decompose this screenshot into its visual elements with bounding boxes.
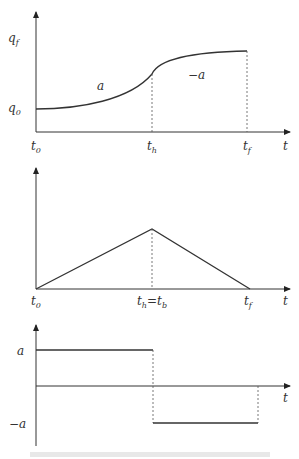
position-panel: qf q0 a −a t0 th tf t	[8, 12, 290, 155]
t-axis-label: t	[283, 139, 288, 153]
acceleration-panel: a −a t	[9, 325, 290, 446]
t-axis-label: t	[283, 391, 288, 405]
tf-label: tf	[243, 139, 253, 155]
position-curve	[36, 51, 247, 109]
t0-label: t0	[31, 139, 41, 155]
t0-label: t0	[31, 294, 41, 310]
tf-label: tf	[244, 294, 254, 310]
qf-label: qf	[8, 31, 21, 47]
accel-a-label: a	[97, 79, 104, 93]
t-axis-label: t	[283, 294, 288, 308]
caption-blur	[30, 452, 270, 457]
a-label: a	[17, 344, 24, 358]
q0-label: q0	[8, 101, 21, 117]
velocity-panel: t0 th=tb tf t	[31, 168, 290, 310]
th-tb-label: th=tb	[137, 294, 167, 310]
trajectory-diagram: qf q0 a −a t0 th tf t t0 th=tb tf t a −a…	[0, 0, 299, 459]
neg-a-label: −a	[9, 417, 26, 431]
accel-neg-a-label: −a	[188, 68, 205, 82]
velocity-triangle	[36, 229, 250, 289]
th-label: th	[147, 139, 157, 155]
